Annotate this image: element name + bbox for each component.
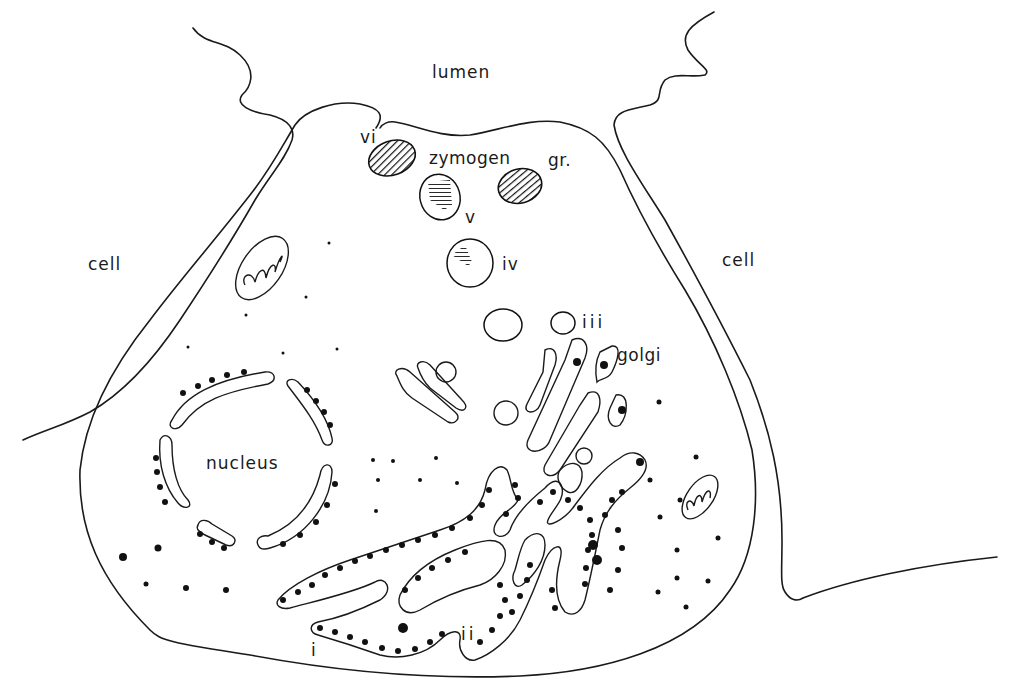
label-lumen: lumen [432,62,490,82]
cell-membrane [80,103,756,677]
label-stage-v: v [465,207,476,227]
label-zymogen: zymogen [429,148,510,168]
label-cell-right: cell [722,250,755,270]
zymogen-granule [494,164,545,208]
label-stage-vi: vi [360,127,377,147]
vacuole-iii [551,312,575,334]
right-neighbour-membrane [614,12,997,600]
label-golgi: golgi [617,345,661,365]
golgi-apparatus [396,339,627,476]
cell-diagram [0,0,1017,690]
label-stage-ii: ii [461,624,476,644]
cytoplasm-granules [119,242,721,610]
label-granule: gr. [548,150,571,170]
label-cell-left: cell [88,254,121,274]
label-stage-iii: iii [582,312,605,332]
label-stage-iv: iv [502,254,519,274]
label-stage-i: i [311,640,317,660]
mitochondrion-left [225,227,299,309]
label-nucleus: nucleus [206,453,279,473]
vacuole-large [484,309,522,341]
mitochondrion-right [675,469,725,525]
left-neighbour-membrane [23,28,293,440]
